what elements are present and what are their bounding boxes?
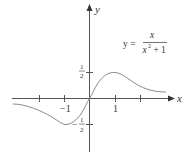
svg-text:+ 1: + 1 [151, 45, 166, 55]
svg-text:x: x [149, 30, 155, 40]
svg-text:y =: y = [123, 39, 135, 49]
equation-label: y = x x 2 + 1 [123, 30, 167, 55]
x-tick-label-neg1: −1 [60, 103, 71, 114]
svg-text:2: 2 [80, 72, 84, 80]
function-plot: x y −1 1 1 2 − 1 2 y = x x 2 + 1 [0, 0, 191, 161]
y-tick-label-neg-half: − 1 2 [72, 116, 85, 134]
x-axis-arrow-icon [168, 96, 175, 102]
svg-text:1: 1 [80, 63, 84, 71]
y-tick-label-half: 1 2 [79, 63, 85, 80]
svg-text:1: 1 [80, 116, 84, 124]
svg-text:2: 2 [80, 126, 84, 134]
x-tick-label-1: 1 [113, 103, 118, 114]
y-axis-label: y [94, 3, 100, 15]
svg-text:x: x [142, 45, 148, 55]
y-axis-arrow-icon [87, 4, 93, 11]
x-axis-label: x [176, 92, 182, 104]
